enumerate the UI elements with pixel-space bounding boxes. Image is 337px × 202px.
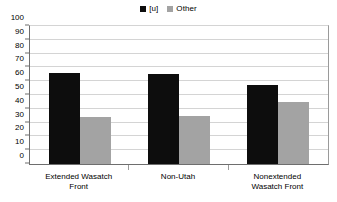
y-axis-tick-label: 50 <box>15 83 24 91</box>
bar-series-a[interactable] <box>49 73 80 164</box>
category-label: Nonextended Wasatch Front <box>228 172 327 192</box>
category-label: Non-Utah <box>128 172 227 182</box>
y-axis-tick-label: 100 <box>11 14 24 22</box>
category-label: Extended Wasatch Front <box>29 172 128 192</box>
legend-swatch-series-a <box>140 6 146 12</box>
y-axis-tick-label: 70 <box>15 55 24 63</box>
bar-group <box>247 26 309 164</box>
category-separator <box>128 165 129 170</box>
bar-series-b[interactable] <box>278 102 309 164</box>
y-axis-tick-label: 0 <box>20 152 24 160</box>
bar-series-b[interactable] <box>80 117 111 164</box>
bar-chart: [u] Other 1009080706050403020100 Extende… <box>0 0 337 202</box>
y-axis-tick-label: 60 <box>15 69 24 77</box>
y-axis-tick-label: 90 <box>15 28 24 36</box>
legend-label-series-a: [u] <box>149 5 158 13</box>
chart-legend: [u] Other <box>0 2 337 16</box>
legend-label-series-b: Other <box>176 5 197 13</box>
y-axis-tick-label: 80 <box>15 42 24 50</box>
bar-series-a[interactable] <box>148 74 179 164</box>
category-axis: Extended Wasatch FrontNon-UtahNonextende… <box>29 165 329 202</box>
bars-layer <box>30 26 328 164</box>
y-axis-tick-label: 20 <box>15 124 24 132</box>
y-axis-tick-label: 40 <box>15 97 24 105</box>
category-separator <box>228 165 229 170</box>
legend-item-series-a: [u] <box>140 5 158 13</box>
bar-series-a[interactable] <box>247 85 278 164</box>
bar-group <box>49 26 111 164</box>
bar-series-b[interactable] <box>179 116 210 164</box>
y-axis: 1009080706050403020100 <box>0 25 29 165</box>
legend-item-series-b: Other <box>167 5 197 13</box>
bar-group <box>148 26 210 164</box>
y-axis-tick-label: 30 <box>15 111 24 119</box>
legend-swatch-series-b <box>167 6 173 12</box>
y-axis-tick-label: 10 <box>15 138 24 146</box>
